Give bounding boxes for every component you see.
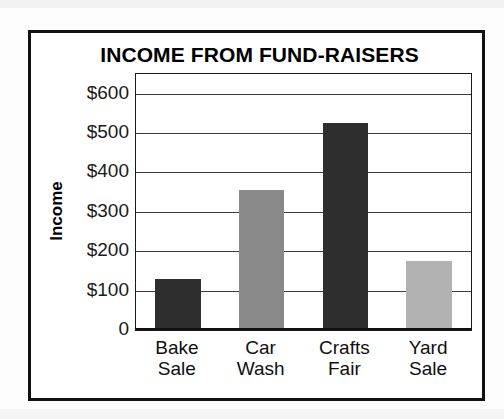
gridline <box>136 94 471 95</box>
x-tick-label-line: Sale <box>386 358 470 379</box>
gridline <box>136 212 471 213</box>
x-tick-label-line: Car <box>219 337 303 358</box>
chart-frame: INCOME FROM FUND-RAISERS Income 0$100$20… <box>28 30 485 401</box>
x-tick-label-line: Bake <box>135 337 219 358</box>
x-tick-label-line: Crafts <box>303 337 387 358</box>
y-tick-label: $500 <box>55 121 129 143</box>
bar <box>406 261 452 330</box>
y-axis-tick-labels: 0$100$200$300$400$500$600 <box>49 73 129 331</box>
y-tick-label: $300 <box>55 200 129 222</box>
bar <box>323 123 369 330</box>
x-tick-label-line: Fair <box>303 358 387 379</box>
plot-area <box>135 73 472 331</box>
bar <box>239 190 285 330</box>
page-edge-bottom <box>0 409 504 419</box>
x-tick-label: YardSale <box>386 337 470 379</box>
x-tick-label: CarWash <box>219 337 303 379</box>
x-tick-label: CraftsFair <box>303 337 387 379</box>
y-tick-label: $600 <box>55 82 129 104</box>
gridline <box>136 172 471 173</box>
x-tick-label-line: Yard <box>386 337 470 358</box>
page-edge-top <box>0 0 504 8</box>
y-tick-label: $100 <box>55 279 129 301</box>
y-tick-label: 0 <box>55 318 129 340</box>
x-tick-label-line: Wash <box>219 358 303 379</box>
gridline <box>136 251 471 252</box>
gridline <box>136 133 471 134</box>
figure-page: INCOME FROM FUND-RAISERS Income 0$100$20… <box>0 0 504 419</box>
x-axis-baseline <box>136 328 471 330</box>
x-axis-tick-labels: BakeSaleCarWashCraftsFairYardSale <box>135 333 472 385</box>
x-tick-label-line: Sale <box>135 358 219 379</box>
bar <box>155 279 201 330</box>
x-tick-label: BakeSale <box>135 337 219 379</box>
y-tick-label: $400 <box>55 160 129 182</box>
chart-title: INCOME FROM FUND-RAISERS <box>31 43 488 67</box>
y-tick-label: $200 <box>55 239 129 261</box>
